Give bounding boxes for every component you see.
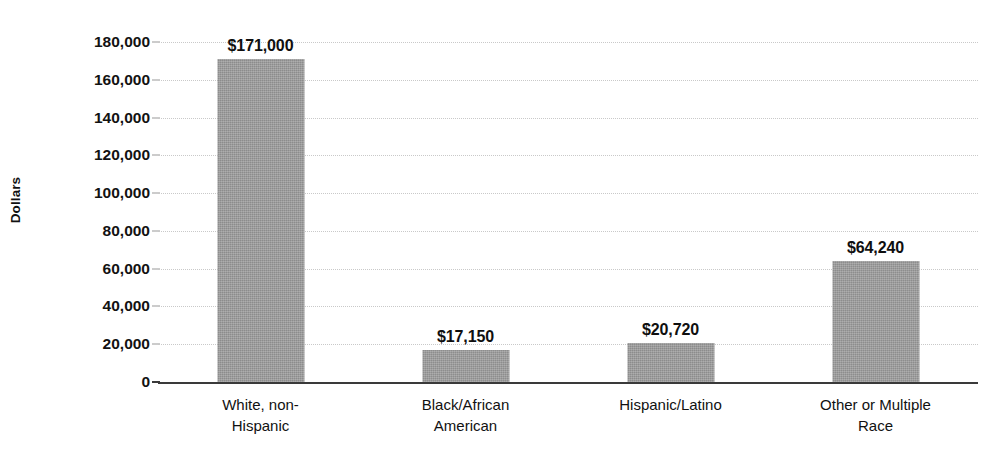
bar-value-label: $20,720 [642,321,699,339]
y-axis-tick-label: 80,000 [0,222,150,240]
y-axis-tick-label: 0 [0,373,150,391]
y-axis-tick-label: 100,000 [0,184,150,202]
bar-group: $17,150 [363,42,568,382]
y-axis-tick-label: 20,000 [0,335,150,353]
bar[interactable] [627,343,714,382]
bar-value-label: $64,240 [847,239,904,257]
y-axis-tick-label: 160,000 [0,71,150,89]
y-axis-tick-label: 60,000 [0,260,150,278]
x-axis-line [158,382,978,384]
bar[interactable] [217,59,304,382]
bar[interactable] [422,350,509,382]
x-axis-category-label: White, non- Hispanic [158,394,363,436]
y-axis-tick-label: 40,000 [0,297,150,315]
bar-group: $171,000 [158,42,363,382]
y-axis-tick-label: 180,000 [0,33,150,51]
y-axis-tick-label: 140,000 [0,109,150,127]
bar-chart: Dollars 020,00040,00060,00080,000100,000… [0,0,998,469]
bar-value-label: $17,150 [437,328,494,346]
bar-group: $20,720 [568,42,773,382]
x-axis-category-label: Black/African American [363,394,568,436]
bar[interactable] [832,261,919,382]
y-axis-ticks: 020,00040,00060,00080,000100,000120,0001… [0,0,150,469]
y-axis-tick-label: 120,000 [0,146,150,164]
bar-value-label: $171,000 [228,37,294,55]
bar-group: $64,240 [773,42,978,382]
x-axis-category-label: Other or Multiple Race [773,394,978,436]
plot-area: $171,000$17,150$20,720$64,240 [158,42,978,382]
x-axis-category-label: Hispanic/Latino [568,394,773,415]
